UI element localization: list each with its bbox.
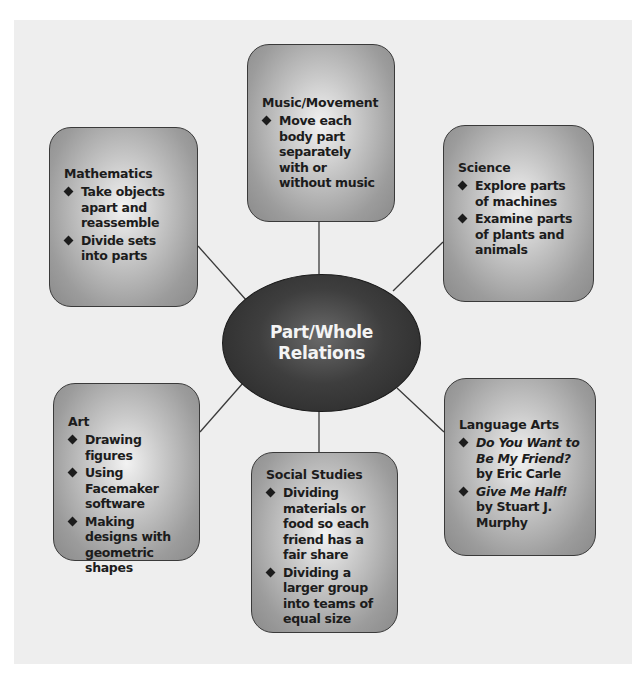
node-item: Using Facemaker software: [68, 465, 187, 512]
connector-language: [397, 388, 444, 432]
node-title: Music/Movement: [262, 95, 382, 111]
node-art: Art Drawing figures Using Facemaker soft…: [53, 383, 200, 561]
node-item: Move each body part separately with or w…: [262, 113, 382, 191]
node-title: Social Studies: [266, 467, 385, 483]
node-title: Art: [68, 414, 187, 430]
node-title: Science: [458, 160, 581, 176]
node-item: Do You Want to Be My Friend? by Eric Car…: [459, 435, 583, 482]
diamond-bullet-icon: [266, 488, 276, 498]
node-item: Give Me Half! by Stuart J. Murphy: [459, 484, 583, 531]
central-topic-line2: Relations: [278, 343, 365, 364]
diamond-bullet-icon: [68, 468, 78, 478]
node-item: Dividing a larger group into teams of eq…: [266, 565, 385, 627]
node-title: Language Arts: [459, 417, 583, 433]
diamond-bullet-icon: [68, 435, 78, 445]
central-topic: Part/Whole Relations: [222, 274, 421, 412]
central-topic-line1: Part/Whole: [270, 322, 373, 343]
node-music-movement: Music/Movement Move each body part separ…: [247, 44, 395, 222]
node-language-arts: Language Arts Do You Want to Be My Frien…: [444, 378, 596, 556]
node-item: Divide sets into parts: [64, 233, 185, 264]
node-item: Take objects apart and reassemble: [64, 184, 185, 231]
diamond-bullet-icon: [458, 214, 468, 224]
connector-science: [393, 242, 443, 291]
diamond-bullet-icon: [64, 187, 74, 197]
connector-art: [200, 383, 243, 432]
diamond-bullet-icon: [68, 516, 78, 526]
node-title: Mathematics: [64, 166, 185, 182]
diamond-bullet-icon: [266, 567, 276, 577]
node-science: Science Explore parts of machines Examin…: [443, 125, 594, 302]
diamond-bullet-icon: [459, 438, 469, 448]
diamond-bullet-icon: [458, 181, 468, 191]
node-item: Making designs with geometric shapes: [68, 514, 187, 576]
node-mathematics: Mathematics Take objects apart and reass…: [49, 127, 198, 307]
node-item: Dividing materials or food so each frien…: [266, 485, 385, 563]
node-item: Explore parts of machines: [458, 178, 581, 209]
book-title: Do You Want to Be My Friend?: [476, 435, 580, 466]
book-author: by Eric Carle: [476, 466, 561, 481]
diamond-bullet-icon: [64, 235, 74, 245]
diamond-bullet-icon: [262, 116, 272, 126]
connector-math: [198, 246, 247, 301]
node-social-studies: Social Studies Dividing materials or foo…: [251, 452, 398, 633]
node-item: Drawing figures: [68, 432, 187, 463]
book-title: Give Me Half!: [476, 484, 567, 499]
diamond-bullet-icon: [459, 486, 469, 496]
book-author: by Stuart J. Murphy: [476, 499, 552, 530]
node-item: Examine parts of plants and animals: [458, 211, 581, 258]
